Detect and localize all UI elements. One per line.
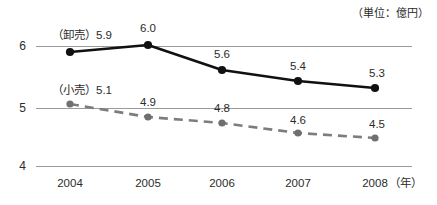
wholesale-label-2008: 5.3 [369,67,385,79]
wholesale-point-2006 [218,66,226,74]
retail-point-2008 [371,134,378,141]
y-axis-tick-labels: 6 5 4 [19,39,26,173]
wholesale-label-2006: 5.6 [214,48,230,60]
x-tick-label-2004: 2004 [57,177,83,189]
y-tick-label-6: 6 [19,39,26,53]
chart-canvas: 6 5 4 （卸売）5.9 6.0 5.6 5.4 [0,0,437,205]
x-tick-label-2008: 2008 [362,177,388,189]
wholesale-label-2004: （卸売）5.9 [52,28,112,41]
x-tick-label-2007: 2007 [285,177,311,189]
retail-label-2008: 4.5 [369,118,385,130]
x-tick-label-2006: 2006 [209,177,235,189]
x-tick-label-2005: 2005 [135,177,161,189]
retail-point-2005 [144,113,151,120]
y-tick-label-5: 5 [19,101,26,115]
retail-label-2004: （小売）5.1 [52,84,112,96]
retail-point-2004 [66,100,73,107]
retail-point-2007 [294,129,301,136]
retail-label-2006: 4.8 [214,102,230,114]
wholesale-point-2007 [294,77,302,85]
line-chart-figure: （単位：億円） 6 5 4 [0,0,437,205]
retail-point-2006 [218,119,225,126]
wholesale-point-2008 [371,84,379,92]
x-axis-unit-label: （年） [389,176,422,189]
retail-label-2005: 4.9 [140,96,156,108]
wholesale-label-2007: 5.4 [290,60,307,72]
wholesale-label-2005: 6.0 [140,22,156,34]
wholesale-point-2004 [66,48,74,56]
x-axis-tick-labels: 2004 2005 2006 2007 2008 （年） [57,176,421,189]
y-tick-label-4: 4 [19,159,26,173]
wholesale-point-2005 [144,41,152,49]
retail-label-2007: 4.6 [290,114,306,126]
